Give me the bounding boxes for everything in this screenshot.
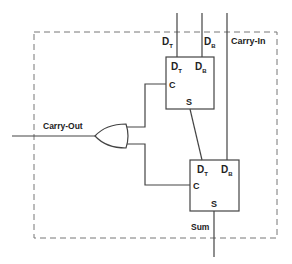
bottom-box-dt-label: DT bbox=[197, 164, 208, 177]
carry-out-label: Carry-Out bbox=[43, 121, 83, 131]
carry-in-label: Carry-In bbox=[231, 36, 266, 46]
top-box-s-label: S bbox=[186, 97, 192, 107]
top-sum-to-bottom-dt-wire bbox=[190, 109, 202, 160]
dashed-enclosure bbox=[34, 32, 277, 238]
bottom-carry-wire bbox=[127, 144, 190, 185]
bottom-box-s-label: S bbox=[211, 199, 217, 209]
sum-label: Sum bbox=[191, 222, 210, 232]
bottom-box-db-label: DB bbox=[221, 164, 233, 177]
input-db-label: DB bbox=[204, 36, 216, 49]
top-box-c-label: C bbox=[169, 80, 176, 90]
bottom-box-c-label: C bbox=[193, 181, 200, 191]
top-box-dt-label: DT bbox=[171, 61, 182, 74]
top-carry-wire bbox=[127, 84, 166, 127]
input-dt-label: DT bbox=[162, 36, 173, 49]
full-adder-diagram: DT DB Carry-In DT DB C S DT DB C S Carry… bbox=[0, 0, 292, 264]
top-box-db-label: DB bbox=[195, 61, 207, 74]
or-gate bbox=[95, 124, 128, 148]
